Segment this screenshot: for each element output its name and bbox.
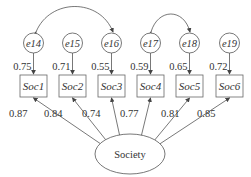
error-label: e17 — [143, 38, 159, 49]
covariance-arc-e14-e16 — [36, 7, 113, 33]
indicator-label: Soc4 — [140, 80, 162, 92]
error-label: e15 — [65, 38, 80, 49]
error-variance: 0.71 — [52, 61, 70, 72]
sem-diagram: e140.75Soc10.87e150.71Soc20.84e160.55Soc… — [0, 0, 251, 177]
indicator-label: Soc5 — [179, 80, 201, 92]
loading-arrow — [159, 98, 230, 145]
factor-loading: 0.77 — [120, 108, 138, 119]
indicator-label: Soc1 — [23, 80, 44, 92]
error-variance: 0.59 — [130, 61, 148, 72]
error-variance: 0.55 — [91, 61, 109, 72]
indicator-label: Soc3 — [101, 80, 123, 92]
latent-label: Society — [114, 149, 146, 160]
loading-arrow — [112, 98, 120, 136]
loading-arrow — [141, 98, 150, 136]
error-label: e14 — [26, 38, 42, 49]
error-variance: 0.72 — [209, 61, 227, 72]
error-label: e16 — [104, 38, 120, 49]
error-variance: 0.75 — [13, 61, 31, 72]
factor-loading: 0.74 — [82, 108, 101, 119]
error-variance: 0.65 — [169, 61, 187, 72]
factor-loading: 0.84 — [44, 108, 63, 119]
error-label: e18 — [182, 38, 198, 49]
loading-arrow — [154, 98, 189, 141]
covariance-arc-e17-e18 — [151, 14, 190, 32]
indicator-label: Soc6 — [219, 80, 241, 92]
indicator-label: Soc2 — [62, 80, 84, 92]
factor-loading: 0.81 — [161, 108, 179, 119]
loading-arrow — [73, 98, 107, 141]
factor-loading: 0.85 — [197, 108, 215, 119]
error-label: e19 — [222, 38, 238, 49]
factor-loading: 0.87 — [9, 108, 27, 119]
